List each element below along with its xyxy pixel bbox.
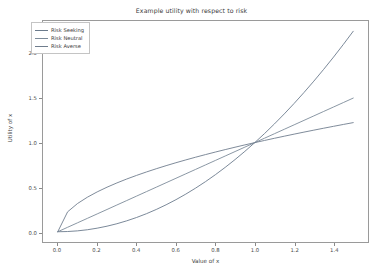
legend-item-risk-neutral[interactable]: Risk Neutral [35, 34, 84, 42]
y-axis-label: Utility of x [7, 98, 13, 158]
y-tick-label: 1.5 [16, 95, 37, 101]
legend-item-label: Risk Averse [51, 42, 81, 50]
plot-area [42, 20, 369, 243]
curves-svg [43, 21, 368, 242]
x-tick-label: 1.0 [251, 247, 259, 253]
x-axis-label: Value of x [42, 258, 369, 264]
legend-item-risk-averse[interactable]: Risk Averse [35, 42, 84, 50]
y-tick-label: 1.0 [16, 140, 37, 146]
y-tick-mark [39, 98, 42, 99]
curve-risk-neutral [58, 98, 353, 232]
y-tick-mark [39, 143, 42, 144]
curve-risk-averse [58, 123, 353, 232]
legend-item-risk-seeking[interactable]: Risk Seeking [35, 26, 84, 34]
legend-line-swatch [35, 30, 48, 31]
legend-line-swatch [35, 38, 48, 39]
legend-item-label: Risk Seeking [51, 26, 84, 34]
x-tick-mark [295, 243, 296, 246]
x-tick-mark [334, 243, 335, 246]
chart-title: Example utility with respect to risk [0, 7, 383, 14]
y-tick-label: 0.0 [16, 230, 37, 236]
x-tick-mark [97, 243, 98, 246]
x-tick-mark [215, 243, 216, 246]
x-tick-mark [176, 243, 177, 246]
matplotlib-figure: Example utility with respect to risk 0.0… [0, 0, 383, 278]
y-tick-label: 0.5 [16, 185, 37, 191]
chart-legend[interactable]: Risk SeekingRisk NeutralRisk Averse [31, 22, 90, 54]
legend-item-label: Risk Neutral [51, 34, 83, 42]
legend-line-swatch [35, 46, 48, 47]
x-tick-mark [255, 243, 256, 246]
x-tick-mark [57, 243, 58, 246]
x-tick-label: 1.4 [330, 247, 338, 253]
x-tick-label: 0.8 [211, 247, 219, 253]
y-tick-mark [39, 233, 42, 234]
x-tick-label: 0.2 [92, 247, 100, 253]
x-tick-label: 1.2 [290, 247, 298, 253]
x-tick-label: 0.6 [172, 247, 180, 253]
x-tick-label: 0.0 [53, 247, 61, 253]
x-tick-label: 0.4 [132, 247, 140, 253]
x-tick-mark [136, 243, 137, 246]
y-tick-mark [39, 188, 42, 189]
